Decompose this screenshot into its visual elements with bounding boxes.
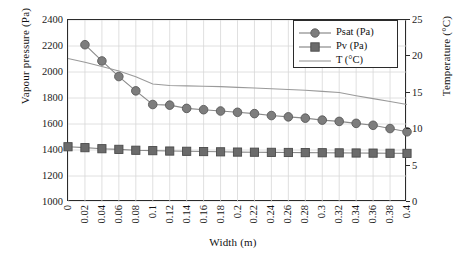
- y-axis-right-tick-label: 20: [412, 50, 438, 61]
- data-point: [352, 149, 360, 157]
- data-point: [115, 145, 123, 153]
- x-axis-tick-label: 0.38: [384, 205, 395, 223]
- chart-figure: Vapour pressure (Pa) Temperature (°C) Wi…: [0, 0, 466, 259]
- y-axis-right-tick-mark: [406, 92, 410, 93]
- x-axis-tick-label: 0.14: [181, 205, 192, 223]
- y-axis-right-tick-mark: [406, 201, 410, 202]
- x-axis-tick-label: 0.08: [130, 205, 141, 223]
- y-axis-right-tick-mark: [406, 19, 410, 20]
- data-point: [98, 145, 106, 153]
- x-axis-tick-label: 0.4: [401, 205, 412, 218]
- legend-item-temperature: T (°C): [298, 52, 393, 66]
- data-point: [335, 117, 344, 126]
- x-axis-tick-label: 0.3: [316, 205, 327, 218]
- y-axis-right-tick-mark: [406, 55, 410, 56]
- y-axis-right-tick-label: 25: [412, 14, 438, 25]
- data-point: [267, 111, 276, 120]
- data-point: [284, 113, 293, 122]
- x-axis-tick-label: 0.06: [113, 205, 124, 223]
- y-axis-left-tick-label: 1200: [25, 170, 63, 181]
- y-axis-left-tick-label: 1400: [25, 144, 63, 155]
- data-point: [81, 40, 90, 49]
- data-point: [199, 105, 208, 114]
- y-axis-left-tick-label: 1800: [25, 92, 63, 103]
- data-point: [284, 148, 292, 156]
- y-axis-right-tick-label: 0: [412, 196, 438, 207]
- x-axis-tick-label: 0.16: [198, 205, 209, 223]
- y-axis-right-tick-mark: [406, 165, 410, 166]
- x-axis-tick-label: 0.34: [350, 205, 361, 223]
- data-point: [301, 114, 310, 123]
- x-axis-tick-label: 0.28: [299, 205, 310, 223]
- y-axis-right-title: Temperature (°C): [440, 0, 452, 136]
- data-point: [318, 116, 327, 125]
- y-axis-right-tick-label: 5: [412, 159, 438, 170]
- x-axis-tick-label: 0.12: [164, 205, 175, 223]
- x-axis-tick-label: 0.04: [96, 205, 107, 223]
- x-axis-tick-label: 0.22: [248, 205, 259, 223]
- data-point: [81, 144, 89, 152]
- data-point: [335, 149, 343, 157]
- data-point: [233, 108, 242, 117]
- y-axis-left-tick-label: 1000: [25, 196, 63, 207]
- data-point: [149, 147, 157, 155]
- data-point: [132, 146, 140, 154]
- data-point: [216, 148, 224, 156]
- data-point: [369, 149, 377, 157]
- data-point: [64, 143, 72, 151]
- x-axis-tick-label: 0.2: [232, 205, 243, 218]
- data-point: [166, 147, 174, 155]
- data-point: [200, 147, 208, 155]
- data-point: [386, 124, 395, 133]
- x-axis-tick-label: 0.02: [79, 205, 90, 223]
- y-axis-right-ticks: 0510152025: [412, 0, 438, 259]
- x-axis-title: Width (m): [0, 236, 466, 248]
- data-point: [403, 149, 411, 157]
- data-point: [250, 109, 259, 118]
- y-axis-left-tick-label: 2200: [25, 40, 63, 51]
- legend: Psat (Pa) Pv (Pa) T (°C): [293, 20, 398, 68]
- data-point: [182, 104, 191, 113]
- y-axis-left-tick-label: 1600: [25, 118, 63, 129]
- data-point: [318, 149, 326, 157]
- legend-item-psat: Psat (Pa): [298, 24, 393, 38]
- data-point: [250, 148, 258, 156]
- x-axis-tick-label: 0.32: [333, 205, 344, 223]
- x-axis-tick-label: 0.1: [147, 205, 158, 218]
- x-axis-tick-label: 0.24: [265, 205, 276, 223]
- y-axis-left-tick-label: 2400: [25, 14, 63, 25]
- data-point: [216, 107, 225, 116]
- x-axis-tick-label: 0.26: [282, 205, 293, 223]
- y-axis-right-tick-label: 15: [412, 86, 438, 97]
- y-axis-left-tick-label: 2000: [25, 66, 63, 77]
- x-axis-tick-label: 0.36: [367, 205, 378, 223]
- data-point: [148, 100, 157, 109]
- data-point: [352, 119, 361, 128]
- data-point: [98, 57, 107, 66]
- data-point: [165, 101, 174, 110]
- legend-marker-square-icon: [298, 39, 332, 51]
- legend-item-pv: Pv (Pa): [298, 38, 393, 52]
- y-axis-right-tick-mark: [406, 128, 410, 129]
- data-point: [233, 148, 241, 156]
- data-point: [183, 147, 191, 155]
- data-point: [132, 87, 141, 96]
- legend-marker-circle-icon: [298, 25, 332, 37]
- x-axis-tick-label: 0: [62, 205, 73, 210]
- x-axis-tick-label: 0.18: [215, 205, 226, 223]
- data-point: [369, 121, 378, 130]
- legend-label-psat: Psat (Pa): [332, 26, 374, 37]
- data-point: [301, 149, 309, 157]
- y-axis-right-tick-label: 10: [412, 123, 438, 134]
- data-point: [267, 148, 275, 156]
- legend-label-pv: Pv (Pa): [332, 40, 367, 51]
- y-axis-left-ticks: 10001200140016001800200022002400: [25, 0, 63, 259]
- data-point: [386, 149, 394, 157]
- legend-marker-line-icon: [298, 53, 332, 65]
- legend-label-temperature: T (°C): [332, 54, 363, 65]
- data-point: [115, 72, 124, 81]
